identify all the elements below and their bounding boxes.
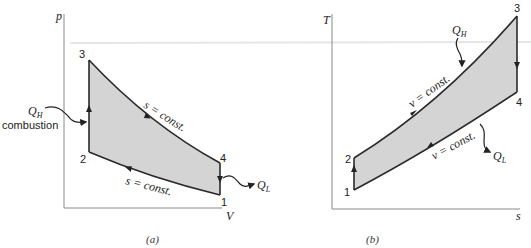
- t-axis-label: T: [323, 13, 331, 27]
- ql-label: QL: [257, 178, 271, 194]
- state-2-label: 2: [80, 153, 86, 165]
- heat-out-arrow-icon: [480, 124, 490, 152]
- qh-label: QH: [452, 23, 468, 39]
- scan-artifact: [70, 42, 531, 43]
- state-4-label: 4: [516, 96, 522, 108]
- heat-out-arrow-icon: [223, 176, 254, 186]
- caption-a: (a): [146, 233, 159, 246]
- state-1-label: 1: [344, 186, 350, 198]
- v-axis-label: V: [226, 209, 235, 223]
- ql-label: QL: [493, 149, 507, 165]
- p-axis-label: p: [55, 9, 62, 23]
- state-3-label: 3: [79, 48, 85, 60]
- state-2-label: 2: [345, 153, 351, 165]
- state-4-label: 4: [220, 152, 226, 164]
- otto-cycle-figure: 3 2 4 1 p V s = const. s = const. QH com…: [0, 0, 531, 248]
- ts-diagram: 1 2 3 4 T s v = const. v = const. QH QL …: [323, 2, 522, 246]
- pv-diagram: 3 2 4 1 p V s = const. s = const. QH com…: [2, 9, 271, 246]
- state-1-label: 1: [221, 196, 227, 208]
- combustion-label: combustion: [2, 119, 58, 131]
- state-3-label: 3: [514, 2, 520, 14]
- caption-b: (b): [366, 233, 379, 246]
- s-axis-label: s: [516, 209, 521, 223]
- qh-label: QH: [28, 104, 44, 120]
